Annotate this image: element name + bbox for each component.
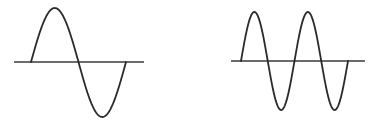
- sine-wave-comparison-figure: [0, 0, 374, 126]
- right-panel: [231, 12, 365, 110]
- left-panel: [14, 8, 144, 117]
